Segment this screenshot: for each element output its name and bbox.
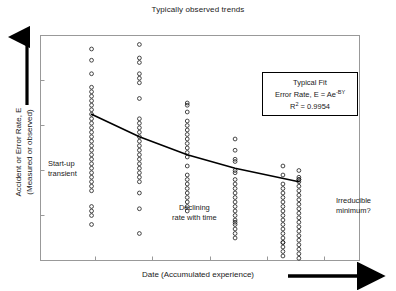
fit-rsquared: R2 = 0.9954 (263, 101, 357, 113)
fit-equation: Error Rate, E = Ae-BY (263, 89, 357, 101)
annotation-startup-line2: transient (48, 169, 77, 179)
annotation-irreducible-minimum: Irreducible minimum? (336, 196, 371, 216)
plot-frame (41, 36, 360, 261)
fit-legend-box: Typical Fit Error Rate, E = Ae-BY R2 = 0… (262, 72, 358, 116)
annotation-declining-line1: Declining (172, 203, 217, 213)
annotation-startup-transient: Start-up transient (48, 159, 77, 179)
annotation-irreducible-line2: minimum? (336, 206, 371, 216)
plot-area (0, 0, 396, 291)
annotation-irreducible-line1: Irreducible (336, 196, 371, 206)
fit-rsquared-sup: 2 (295, 101, 298, 107)
fit-equation-exponent: -BY (336, 89, 345, 95)
chart-figure: Typically observed trends Accident or Er… (0, 0, 396, 291)
fit-rsquared-value: = 0.9954 (301, 102, 330, 111)
annotation-declining-rate: Declining rate with time (172, 203, 217, 223)
fit-title: Typical Fit (263, 77, 357, 89)
annotation-startup-line1: Start-up (48, 159, 77, 169)
fit-equation-prefix: Error Rate, E = Ae (275, 90, 336, 99)
annotation-declining-line2: rate with time (172, 213, 217, 223)
